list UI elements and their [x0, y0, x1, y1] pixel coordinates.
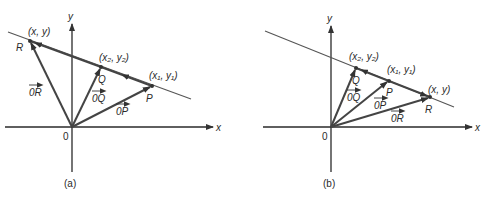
vector-label-0p: 0P — [374, 98, 387, 111]
vector-label-0q: 0Q — [347, 90, 361, 103]
coord-label-r: (x, y) — [428, 84, 450, 95]
origin-label: 0 — [63, 131, 69, 142]
point-label-q: Q — [352, 75, 360, 86]
vector-label-0p: 0P — [116, 104, 129, 117]
x-axis-label: x — [215, 122, 222, 133]
panel-caption-b: (b) — [323, 178, 335, 189]
panel-caption-a: (a) — [64, 178, 76, 189]
point-r — [428, 95, 432, 99]
coord-label-q: (x₂, y₂) — [99, 52, 129, 63]
point-r — [28, 39, 32, 43]
panel-a: x y 0 (x, y) R (x₂, y₂) Q (x₁, y₁) P 0R — [5, 11, 222, 189]
vector-label-0r: 0R — [29, 85, 42, 98]
point-q — [354, 66, 358, 70]
svg-text:0R: 0R — [29, 87, 42, 98]
y-axis-label: y — [326, 13, 333, 24]
point-label-p: P — [146, 93, 153, 104]
point-q — [99, 65, 103, 69]
coord-label-p: (x₁, y₁) — [387, 64, 416, 75]
vector-label-0q: 0Q — [92, 91, 106, 104]
point-p — [387, 79, 391, 83]
figure: x y 0 (x, y) R (x₂, y₂) Q (x₁, y₁) P 0R — [0, 0, 486, 197]
point-label-p: P — [386, 87, 393, 98]
svg-text:0P: 0P — [374, 100, 387, 111]
vector-0p — [72, 87, 150, 127]
point-label-q: Q — [98, 74, 106, 85]
segment-q-to-p — [356, 68, 389, 81]
segment-p-to-r — [389, 81, 430, 97]
point-p — [150, 84, 154, 88]
segment-p-to-q — [101, 67, 152, 86]
vector-label-0r: 0R — [391, 111, 404, 124]
x-axis-label: x — [474, 122, 481, 133]
coord-label-p: (x₁, y₁) — [149, 70, 178, 81]
svg-text:0R: 0R — [391, 113, 404, 124]
point-label-r: R — [16, 42, 23, 53]
panel-b: x y 0 (x₂, y₂) Q (x₁, y₁) P (x, y) R 0Q — [263, 13, 481, 189]
coord-label-r: (x, y) — [28, 26, 50, 37]
point-label-r: R — [425, 104, 432, 115]
y-axis-label: y — [67, 11, 74, 22]
svg-text:0Q: 0Q — [347, 92, 361, 103]
svg-text:0P: 0P — [116, 106, 129, 117]
svg-text:0Q: 0Q — [92, 93, 106, 104]
coord-label-q: (x₂, y₂) — [349, 51, 379, 62]
origin-label: 0 — [322, 131, 328, 142]
